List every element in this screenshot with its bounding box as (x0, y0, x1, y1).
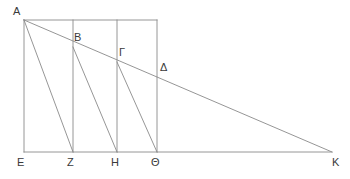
segment-diagonal-B-to-H (73, 47, 117, 152)
vertex-label-H: H (111, 157, 119, 168)
vertex-label-gamma: Γ (119, 47, 125, 58)
vertex-label-E: E (17, 157, 24, 168)
vertex-label-A: A (13, 6, 20, 17)
vertex-label-B: B (74, 32, 81, 43)
vertex-label-K: K (332, 157, 339, 168)
segment-diagonal-A-to-Z (24, 20, 73, 152)
segment-layer (24, 20, 332, 152)
geometry-diagram: A B Γ Δ E Z H Θ K (0, 0, 350, 179)
vertex-label-theta: Θ (151, 157, 160, 168)
vertex-label-Z: Z (67, 157, 74, 168)
vertex-label-delta: Δ (160, 62, 167, 73)
diagram-canvas (0, 0, 350, 179)
segment-ray-A-to-K (24, 20, 332, 152)
segment-diagonal-gamma-to-theta (117, 62, 157, 152)
